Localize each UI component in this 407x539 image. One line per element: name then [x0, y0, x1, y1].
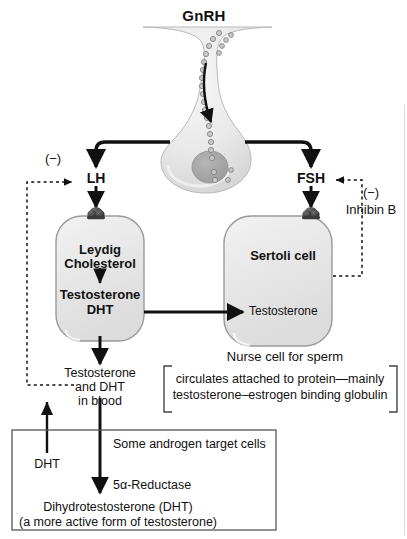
- page-edge-line: [404, 105, 405, 535]
- gnrh-transport-arrow: [204, 63, 211, 122]
- inhibin-b-label: Inhibin B: [346, 203, 397, 218]
- dht-product-line-1: Dihydrotestosterone (DHT): [43, 500, 192, 514]
- circulation-note-line-2: testosterone–estrogen binding globulin: [173, 388, 388, 402]
- dht-product-line-2: (a more active form of testosterone): [19, 515, 217, 529]
- sertoli-testosterone-label: Testosterone: [249, 305, 318, 318]
- blood-line-3: in blood: [78, 394, 122, 408]
- arrow-gland-to-fsh: [245, 142, 311, 167]
- blood-line-1: Testosterone: [64, 366, 136, 380]
- lh-label: LH: [87, 171, 106, 187]
- diagram-graphics: [0, 0, 407, 539]
- feedback-sign-right: (−): [363, 186, 379, 201]
- bracket-right: [389, 366, 397, 412]
- gnrh-label: GnRH: [182, 8, 225, 25]
- blood-line-2: and DHT: [75, 380, 125, 394]
- leydig-testosterone-label: Testosterone: [60, 288, 141, 303]
- fsh-receptor-icon: [302, 207, 320, 219]
- target-cells-title: Some androgen target cells: [113, 437, 266, 451]
- leydig-dht-label: DHT: [87, 303, 114, 318]
- dht-input-label: DHT: [34, 457, 60, 471]
- bracket-left: [164, 366, 172, 412]
- leydig-cell: [56, 207, 144, 341]
- pituitary-gland-illustration: [143, 27, 272, 193]
- fsh-label: FSH: [297, 171, 325, 187]
- feedback-loop-lh: [27, 182, 74, 385]
- nurse-cell-caption: Nurse cell for sperm: [227, 350, 343, 365]
- circulation-note-line-1: circulates attached to protein—mainly: [176, 372, 384, 386]
- figure-canvas: GnRH (−) LH FSH (−) Inhibin B Leydig Cho…: [0, 0, 407, 539]
- reductase-label: 5α-Reductase: [113, 478, 191, 492]
- lh-receptor-icon: [87, 207, 105, 219]
- pars-distalis: [192, 151, 228, 183]
- arrow-gland-to-lh: [96, 142, 170, 167]
- sertoli-label: Sertoli cell: [250, 249, 316, 264]
- sertoli-cell: [224, 207, 332, 346]
- granule-chain: [199, 30, 233, 182]
- feedback-loop-fsh: [333, 180, 362, 276]
- feedback-sign-left: (−): [45, 152, 61, 167]
- cholesterol-label: Cholesterol: [64, 257, 136, 272]
